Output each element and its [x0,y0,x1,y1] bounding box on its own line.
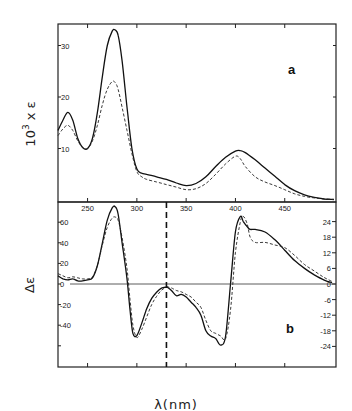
y-tick-label-b-left: -40 [60,321,71,330]
y-tick-label-b-left: -20 [60,301,71,310]
curve-b-dashed [58,217,166,338]
x-tick-label: 350 [180,204,193,213]
y-tick-label-a: 10 [61,145,69,154]
curve-a-solid [58,29,334,199]
y-tick-label-a: 20 [61,93,69,102]
y-tick-label-a: 30 [61,42,69,51]
svg-text:103 x ε: 103 x ε [21,101,38,146]
panel-a-label: a [288,62,296,77]
panel-b-label: b [286,321,294,336]
y-tick-label-b-right: -12 [320,311,331,320]
x-tick-label: 450 [278,204,291,213]
x-tick-label: 250 [81,204,94,213]
y-axis-title-b: Δε [22,277,37,293]
y-axis-title-a: 103 x ε [21,101,38,146]
y-tick-label-b-right: -24 [320,342,331,351]
y-tick-label-b-right: 18 [323,233,331,242]
x-tick-label: 400 [229,204,242,213]
ylabel-b: Δε [22,277,37,293]
y-tick-label-b-left: 40 [60,239,68,248]
panel-b-frame [58,202,336,367]
y-tick-label-b-right: 24 [323,218,331,227]
y-tick-label-b-right: 6 [327,264,331,273]
curve-b-dashed-right-axis- [166,216,332,340]
y-tick-label-b-right: -18 [320,327,331,336]
x-axis-title: λ(nm) [154,397,198,411]
x-tick-label: 300 [131,204,144,213]
y-tick-label-b-right: 12 [323,249,331,258]
y-tick-label-b-right: -6 [324,296,331,305]
ylabel-a-base: 10 [23,130,38,147]
y-tick-label-b-left: 0 [60,280,64,289]
panel-a-frame [58,24,336,202]
figure: 2503003504004501020306040200-20-40241812… [0,0,352,411]
ylabel-a-rest: x ε [23,101,38,124]
curve-b-solid [58,206,166,337]
y-tick-label-b-left: 60 [60,218,68,227]
y-tick-label-b-left: 20 [60,259,68,268]
